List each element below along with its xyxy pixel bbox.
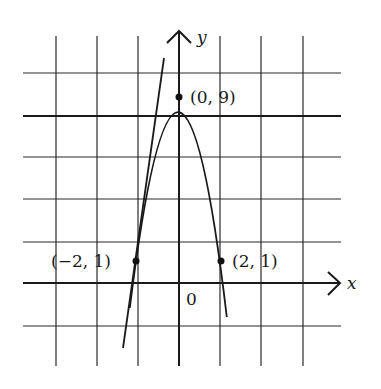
x-axis-label: x xyxy=(347,273,357,293)
vertex-label: (0, 9) xyxy=(190,87,236,107)
origin-label: 0 xyxy=(186,289,197,309)
point-right xyxy=(218,258,225,265)
tangent-line xyxy=(123,58,164,348)
left-point-label: (−2, 1) xyxy=(51,251,111,271)
graph: y x 0 (0, 9) (−2, 1) (2, 1) xyxy=(0,0,381,389)
point-left xyxy=(133,258,140,265)
grid-horizontal xyxy=(23,73,341,326)
point-vertex xyxy=(176,94,183,101)
right-point-label: (2, 1) xyxy=(232,251,278,271)
y-axis-label: y xyxy=(196,27,207,47)
